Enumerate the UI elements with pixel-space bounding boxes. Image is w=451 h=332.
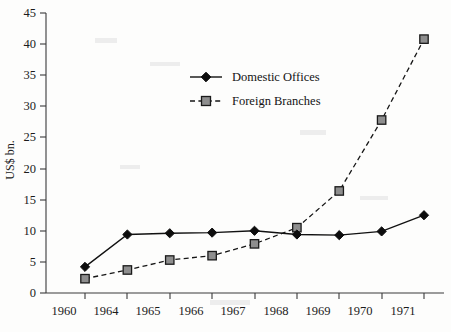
x-tick-label-1969: 1969 [306, 304, 331, 318]
legend: Domestic Offices Foreign Branches [190, 70, 321, 108]
data-point-domestic-1971 [419, 211, 428, 220]
y-axis: 0 5 10 15 20 25 30 35 40 45 US$ bn. [3, 6, 46, 300]
y-tick-label-30: 30 [24, 99, 37, 113]
data-point-domestic-1965 [165, 229, 174, 238]
chart-canvas: 0 5 10 15 20 25 30 35 40 45 US$ bn. 1960… [0, 0, 451, 332]
y-tick-label-25: 25 [24, 130, 37, 144]
y-tick-label-35: 35 [24, 68, 37, 82]
y-tick-label-0: 0 [30, 286, 36, 300]
data-point-domestic-1967 [250, 226, 259, 235]
x-tick-label-1965: 1965 [136, 304, 161, 318]
y-tick-label-45: 45 [24, 6, 37, 20]
y-tick-label-15: 15 [24, 193, 37, 207]
legend-label-foreign-branches: Foreign Branches [232, 94, 321, 108]
data-point-foreign-1966 [208, 251, 216, 259]
data-point-domestic-1970 [377, 227, 386, 236]
y-tick-label-10: 10 [24, 224, 37, 238]
x-tick-label-1960: 1960 [52, 304, 77, 318]
x-axis: 1960 1964 1965 1966 1967 1968 1969 1970 … [46, 293, 444, 318]
x-tick-label-1971: 1971 [391, 304, 416, 318]
y-tick-label-5: 5 [30, 255, 36, 269]
data-point-foreign-1971 [420, 35, 428, 43]
data-point-foreign-1969 [335, 187, 343, 195]
data-point-domestic-1969 [335, 231, 344, 240]
data-point-foreign-1960 [81, 274, 89, 282]
data-point-foreign-1965 [166, 256, 174, 264]
legend-marker-diamond-icon [201, 72, 211, 82]
x-tick-label-1964: 1964 [94, 304, 120, 318]
data-point-foreign-1964 [123, 266, 131, 274]
x-tick-label-1966: 1966 [179, 304, 204, 318]
legend-marker-square-icon [202, 97, 211, 106]
y-tick-label-40: 40 [24, 37, 37, 51]
data-point-foreign-1967 [250, 240, 258, 248]
legend-label-domestic-offices: Domestic Offices [232, 70, 320, 84]
chart-figure: 0 5 10 15 20 25 30 35 40 45 US$ bn. 1960… [0, 0, 451, 332]
data-point-foreign-1970 [377, 116, 385, 124]
y-axis-title: US$ bn. [3, 140, 17, 179]
x-tick-label-1968: 1968 [264, 304, 289, 318]
data-point-domestic-1966 [208, 228, 217, 237]
x-tick-label-1970: 1970 [348, 304, 373, 318]
y-tick-label-20: 20 [24, 162, 37, 176]
x-tick-label-1967: 1967 [221, 304, 246, 318]
